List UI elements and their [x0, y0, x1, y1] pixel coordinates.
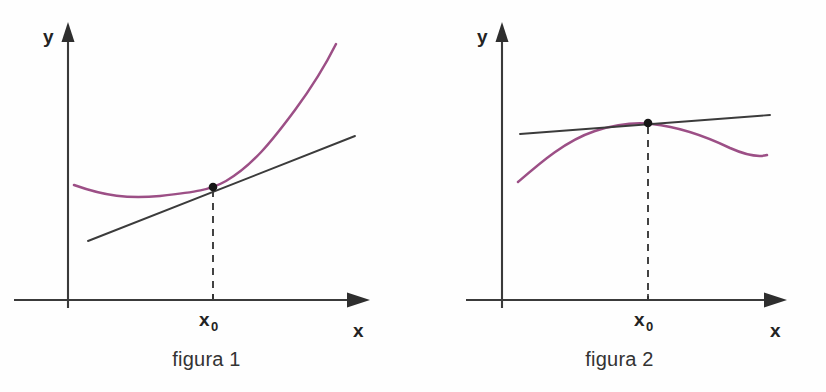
figure-1-x-axis-arrow-icon [347, 293, 370, 308]
figure-1-x0-label-subscript: 0 [211, 319, 218, 334]
figure-1-svg: y x x 0 [0, 0, 413, 392]
figure-1-function-curve [74, 44, 336, 197]
figure-page: y x x 0 figura 1 [0, 0, 826, 392]
figure-1-y-axis-arrow-icon [62, 22, 75, 42]
figure-2-y-axis-arrow-icon [496, 22, 509, 42]
figure-1-caption: figura 1 [0, 348, 413, 371]
figure-1-tangency-point [209, 183, 218, 192]
figure-1-x0-label-base: x [199, 309, 210, 330]
figure-2-x0-label-base: x [634, 309, 645, 330]
figure-2-panel: y x x 0 figura 2 [413, 0, 826, 392]
figure-2-y-axis-label: y [477, 26, 488, 47]
figure-2-x0-label-subscript: 0 [646, 319, 653, 334]
figure-2-svg: y x x 0 [413, 0, 826, 392]
figure-2-tangency-point [644, 119, 653, 128]
figure-1-y-axis-label: y [43, 26, 54, 47]
figure-2-x-axis-label: x [770, 320, 781, 341]
figure-1-tangent-line [88, 136, 355, 241]
figure-2-x-axis-arrow-icon [764, 293, 787, 308]
figure-1-x-axis-label: x [353, 320, 364, 341]
figure-2-caption: figura 2 [413, 348, 826, 371]
figure-1-panel: y x x 0 figura 1 [0, 0, 413, 392]
